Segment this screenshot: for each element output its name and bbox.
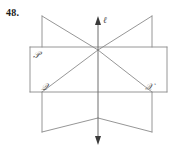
label-line-l: ℓ bbox=[103, 15, 107, 25]
line-l-arrow-up-icon bbox=[95, 16, 101, 25]
figure-page: 48. Three intersecting planes with commo… bbox=[0, 0, 180, 148]
line-l-arrow-down-icon bbox=[95, 136, 101, 145]
geometry-figure: Three intersecting planes with common li… bbox=[0, 0, 180, 148]
